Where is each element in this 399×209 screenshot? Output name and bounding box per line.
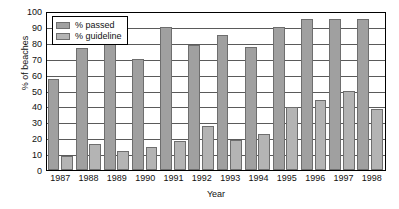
bar-group-1993: [216, 13, 244, 170]
bar-1989-passed: [104, 39, 116, 170]
bar-1991-guideline: [174, 141, 186, 170]
bar-1997-guideline: [343, 91, 355, 171]
bar-group-1992: [188, 13, 216, 170]
y-tick-label: 20: [18, 135, 42, 144]
bar-1992-guideline: [202, 126, 214, 170]
bar-group-1995: [272, 13, 300, 170]
bar-group-1996: [301, 13, 329, 170]
bar-1991-passed: [160, 27, 172, 170]
bar-1987-guideline: [61, 156, 73, 170]
bar-1989-guideline: [117, 151, 129, 170]
y-tick-label: 100: [18, 8, 42, 17]
bar-1997-passed: [329, 19, 341, 170]
legend-item-guideline: % guideline: [56, 31, 122, 41]
x-tick-label: 1996: [301, 173, 329, 184]
x-tick-label: 1988: [74, 173, 102, 184]
x-tick-label: 1994: [244, 173, 272, 184]
x-tick-label: 1993: [216, 173, 244, 184]
legend-swatch-guideline-icon: [56, 33, 70, 40]
x-tick-label: 1995: [273, 173, 301, 184]
bar-1990-passed: [132, 59, 144, 170]
bar-1994-guideline: [258, 134, 270, 170]
x-tick-label: 1997: [329, 173, 357, 184]
y-tick-label: 60: [18, 71, 42, 80]
y-tick-label: 40: [18, 103, 42, 112]
legend-swatch-passed-icon: [56, 22, 70, 29]
bar-1990-guideline: [146, 147, 158, 170]
bar-1994-passed: [245, 47, 257, 170]
legend-label-passed: % passed: [75, 21, 115, 30]
x-tick-label: 1991: [159, 173, 187, 184]
bar-group-1990: [132, 13, 160, 170]
bar-1993-guideline: [230, 140, 242, 170]
bar-1998-passed: [357, 19, 369, 170]
x-tick-label: 1989: [103, 173, 131, 184]
x-tick-label: 1987: [46, 173, 74, 184]
bar-1995-passed: [273, 27, 285, 170]
bar-1993-passed: [217, 35, 229, 170]
y-tick-label: 50: [18, 87, 42, 96]
bar-1987-passed: [48, 79, 60, 170]
bar-group-1994: [244, 13, 272, 170]
y-tick-label: 10: [18, 151, 42, 160]
y-tick-label: 90: [18, 23, 42, 32]
x-tick-label: 1992: [188, 173, 216, 184]
chart-legend: % passed % guideline: [52, 16, 128, 45]
legend-item-passed: % passed: [56, 20, 122, 30]
bar-group-1998: [357, 13, 385, 170]
x-tick-label: 1990: [131, 173, 159, 184]
bar-group-1991: [160, 13, 188, 170]
y-tick-label: 30: [18, 119, 42, 128]
bar-1996-passed: [301, 19, 313, 170]
bar-1992-passed: [188, 45, 200, 170]
bar-1998-guideline: [371, 109, 383, 170]
bar-1995-guideline: [286, 107, 298, 170]
x-axis-tick-labels: 1987198819891990199119921993199419951996…: [46, 173, 386, 187]
x-tick-label: 1998: [358, 173, 386, 184]
bar-group-1997: [329, 13, 357, 170]
y-tick-label: 0: [18, 167, 42, 176]
bar-1988-passed: [76, 48, 88, 170]
x-axis-title: Year: [46, 189, 386, 199]
bar-1996-guideline: [315, 100, 327, 170]
bar-1988-guideline: [89, 144, 101, 170]
y-axis-tick-labels: 1009080706050403020100: [18, 12, 42, 171]
y-tick-label: 70: [18, 55, 42, 64]
bar-chart: % of beaches 1009080706050403020100 1987…: [0, 0, 399, 209]
legend-label-guideline: % guideline: [75, 32, 122, 41]
y-tick-label: 80: [18, 39, 42, 48]
